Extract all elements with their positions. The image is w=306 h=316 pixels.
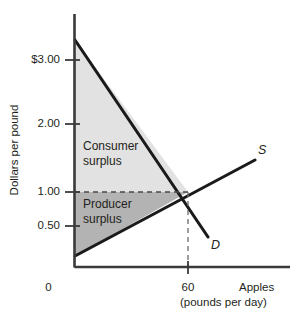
y-tick-label-0-50: 0.50 <box>0 219 60 232</box>
producer-surplus-label-line2: surplus <box>83 213 122 226</box>
consumer-surplus-label-line1: Consumer <box>83 140 138 153</box>
x-axis-subtitle: (pounds per day) <box>180 296 267 309</box>
y-tick-label-1: 1.00 <box>0 185 60 198</box>
chart-canvas <box>0 0 306 316</box>
producer-surplus-label-line1: Producer <box>83 198 132 211</box>
y-tick-label-2: 2.00 <box>0 117 60 130</box>
y-tick-label-3: $3.00 <box>0 53 60 66</box>
origin-label: 0 <box>36 281 61 294</box>
supply-curve-label: S <box>258 143 266 157</box>
x-tick-label-60: 60 <box>168 281 208 294</box>
demand-curve-label: D <box>211 238 220 252</box>
x-axis-title: Apples <box>239 281 274 294</box>
supply-demand-chart: Dollars per pound $3.00 2.00 1.00 0.50 0… <box>0 0 306 316</box>
consumer-surplus-label-line2: surplus <box>83 155 122 168</box>
